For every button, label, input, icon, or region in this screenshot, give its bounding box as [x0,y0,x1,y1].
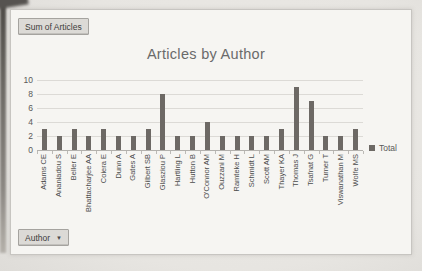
category-label: Tsafnat G [306,154,316,234]
category-label: Hartling L [173,154,183,234]
pivot-axis-field-button[interactable]: Author ▼ [18,229,69,246]
legend-series-label: Total [379,144,397,153]
axis-tick [67,151,68,154]
axis-tick [274,151,275,154]
axis-tick [319,151,320,154]
axis-tick [244,151,245,154]
category-label: Ouzzani M [217,154,227,234]
bar [338,136,343,150]
pivot-chart: Sum of Articles Articles by Author 02468… [10,9,412,255]
scanned-page: Sum of Articles Articles by Author 02468… [0,0,422,271]
gridline-y4 [37,122,363,123]
bar [86,136,91,150]
category-label: Beller E [69,154,79,234]
bar [279,129,284,150]
bar [205,122,210,150]
bar [175,136,180,150]
category-label: Hutton B [188,154,198,234]
bar [309,101,314,150]
y-axis-tick-label: 4 [15,118,33,127]
bar [294,87,299,150]
category-label: Ananiadou S [54,154,64,234]
bar [249,136,254,150]
y-axis-tick-label: 2 [15,132,33,141]
category-label: Schmidt L [247,154,257,234]
bar [146,129,151,150]
chart-legend: Total [369,144,397,153]
axis-tick [81,151,82,154]
bar [101,129,106,150]
y-axis-tick-label: 0 [15,146,33,155]
gridline-y6 [37,108,363,109]
gridline-y10 [37,80,363,81]
bar [235,136,240,150]
category-label: Wolfe MS [351,154,361,234]
bar [190,136,195,150]
category-label: Bhattacharjee AA [84,154,94,234]
axis-tick [185,151,186,154]
axis-tick [289,151,290,154]
axis-tick [348,151,349,154]
category-label: Thomas J [291,154,301,234]
axis-tick [96,151,97,154]
axis-tick [156,151,157,154]
axis-tick [37,151,38,154]
bar [264,136,269,150]
category-label: Gilbert SB [143,154,153,234]
axis-tick [230,151,231,154]
category-label: Glasziou P [158,154,168,234]
category-label: Gates A [128,154,138,234]
axis-tick [215,151,216,154]
axis-tick [111,151,112,154]
category-label: Dunn A [114,154,124,234]
bar [131,136,136,150]
axis-tick [200,151,201,154]
category-label: Coiera E [99,154,109,234]
y-axis-tick-label: 8 [15,90,33,99]
bar [42,129,47,150]
bar [323,136,328,150]
bar [57,136,62,150]
y-axis-tick-label: 6 [15,104,33,113]
category-label: Scott AM [262,154,272,234]
axis-tick [363,151,364,154]
category-label: Turner T [321,154,331,234]
category-label: Ramteke H [232,154,242,234]
category-label: Viswanathan M [336,154,346,234]
category-label: Thayer KA [277,154,287,234]
category-label: O'Connor AM [202,154,212,234]
axis-tick [126,151,127,154]
bar [72,129,77,150]
axis-tick [333,151,334,154]
axis-tick [304,151,305,154]
bar [353,129,358,150]
plot-area: 0246810Adams CEAnaniadou SBeller EBhatta… [11,10,413,256]
axis-tick [52,151,53,154]
axis-tick [170,151,171,154]
pivot-axis-field-label: Author [25,233,50,243]
bar [220,136,225,150]
page-edge-shadow [0,0,6,253]
legend-swatch-icon [369,145,375,151]
gridline-y8 [37,94,363,95]
y-axis-tick-label: 10 [15,76,33,85]
axis-tick [259,151,260,154]
dropdown-arrow-icon[interactable]: ▼ [54,235,62,241]
bar [160,94,165,150]
bar [116,136,121,150]
category-label: Adams CE [39,154,49,234]
axis-tick [141,151,142,154]
